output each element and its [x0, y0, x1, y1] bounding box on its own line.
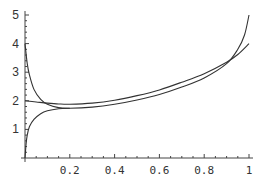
curve-a — [25, 44, 249, 105]
axes — [21, 11, 253, 162]
plot-curves — [25, 15, 249, 158]
curve-b — [25, 15, 249, 108]
axis-ticks — [25, 15, 249, 158]
y-tick-label: 4 — [12, 37, 19, 51]
y-tick-label: 3 — [12, 65, 19, 79]
x-tick-label: 1 — [246, 164, 253, 177]
x-tick-label: 0.6 — [149, 164, 169, 177]
tick-labels: 0.20.40.60.8112345 — [12, 8, 252, 177]
line-chart: 0.20.40.60.8112345 — [0, 0, 268, 180]
y-tick-label: 2 — [12, 94, 19, 108]
x-tick-label: 0.8 — [194, 164, 214, 177]
y-tick-label: 5 — [12, 8, 19, 22]
x-tick-label: 0.2 — [60, 164, 80, 177]
y-tick-label: 1 — [12, 122, 19, 136]
x-tick-label: 0.4 — [105, 164, 125, 177]
curve-c — [25, 108, 70, 158]
